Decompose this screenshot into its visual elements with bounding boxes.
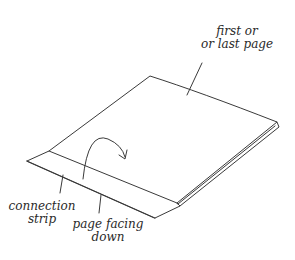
label-page-facing-down: page facing down xyxy=(68,218,148,244)
leader-connection-strip xyxy=(60,175,63,193)
leader-first-last-page xyxy=(187,63,202,95)
label-page-facing-down-line2: down xyxy=(68,231,148,244)
label-first-or-last-page-line2: or last page xyxy=(192,38,282,51)
diagram-canvas: first or or last page connection strip p… xyxy=(0,0,295,260)
page-sheet xyxy=(49,76,277,203)
label-first-or-last-page: first or or last page xyxy=(192,25,282,51)
leader-page-facing-down xyxy=(99,195,101,213)
